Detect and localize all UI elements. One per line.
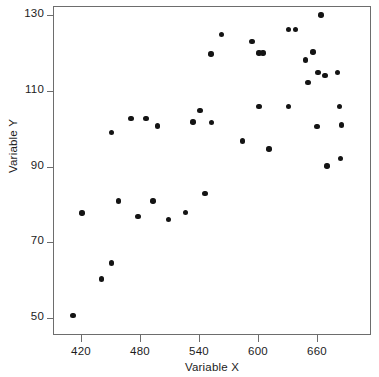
data-point — [303, 57, 308, 62]
data-point — [305, 80, 310, 85]
data-point — [128, 116, 133, 121]
x-axis-tick-label: 420 — [58, 345, 104, 357]
data-point — [338, 156, 343, 161]
x-axis-tick — [199, 335, 200, 342]
x-axis-tick — [317, 335, 318, 342]
data-point — [318, 12, 323, 17]
data-points-layer — [54, 7, 370, 334]
data-point — [240, 138, 245, 143]
data-point — [314, 124, 319, 129]
y-axis-tick-label: 50 — [4, 310, 44, 322]
y-axis-tick — [47, 318, 54, 319]
x-axis-tick — [81, 335, 82, 342]
data-point — [143, 116, 148, 121]
data-point — [310, 49, 315, 54]
data-point — [256, 104, 261, 109]
data-point — [70, 313, 75, 318]
y-axis-title: Variable Y — [7, 106, 19, 186]
y-axis-tick-label: 110 — [4, 83, 44, 95]
data-point — [166, 217, 171, 222]
y-axis-tick — [47, 167, 54, 168]
data-point — [339, 122, 344, 127]
x-axis-tick-label: 480 — [117, 345, 163, 357]
data-point — [79, 210, 84, 215]
data-point — [266, 146, 271, 151]
data-point — [155, 123, 160, 128]
y-axis-tick-label: 70 — [4, 234, 44, 246]
x-axis-tick-label: 600 — [235, 345, 281, 357]
x-axis-title: Variable X — [53, 361, 371, 373]
data-point — [249, 39, 254, 44]
x-axis-tick-label: 660 — [294, 345, 340, 357]
scatter-plot-figure: 507090110130420480540600660 Variable X V… — [0, 0, 379, 377]
data-point — [322, 73, 327, 78]
data-point — [293, 27, 298, 32]
data-point — [202, 191, 207, 196]
data-point — [209, 120, 214, 125]
y-axis-tick-label: 130 — [4, 7, 44, 19]
plot-area-frame — [53, 6, 371, 335]
data-point — [208, 51, 213, 56]
data-point — [335, 70, 340, 75]
y-axis-tick — [47, 242, 54, 243]
data-point — [286, 27, 291, 32]
data-point — [183, 210, 188, 215]
data-point — [337, 104, 342, 109]
data-point — [135, 214, 140, 219]
x-axis-tick — [258, 335, 259, 342]
y-axis-tick — [47, 15, 54, 16]
x-axis-tick-label: 540 — [176, 345, 222, 357]
data-point — [99, 276, 104, 281]
data-point — [324, 163, 329, 168]
data-point — [109, 130, 114, 135]
data-point — [116, 198, 121, 203]
y-axis-tick — [47, 91, 54, 92]
data-point — [219, 32, 224, 37]
data-point — [197, 108, 202, 113]
x-axis-tick — [140, 335, 141, 342]
data-point — [286, 104, 291, 109]
data-point — [260, 50, 265, 55]
data-point — [109, 260, 114, 265]
data-point — [150, 198, 155, 203]
data-point — [315, 70, 320, 75]
data-point — [190, 119, 195, 124]
